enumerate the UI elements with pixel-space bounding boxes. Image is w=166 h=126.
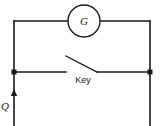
circuit-diagram: G Key Q (0, 0, 166, 126)
open-switch-icon[interactable] (66, 56, 97, 72)
key-label: Key (75, 75, 91, 85)
charge-label: Q (1, 100, 9, 112)
up-arrow-icon (11, 89, 17, 96)
circuit-diagram-canvas: G Key Q (0, 0, 166, 126)
left-junction-node (12, 70, 17, 75)
galvanometer-label: G (80, 15, 88, 27)
right-junction-node (148, 70, 153, 75)
